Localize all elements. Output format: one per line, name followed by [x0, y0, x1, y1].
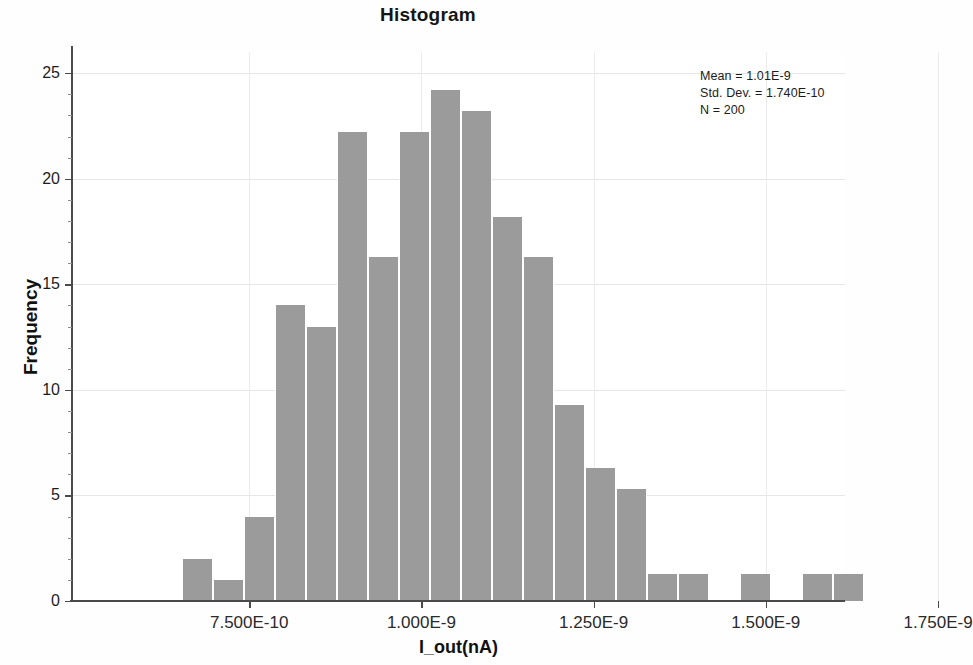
statistics-annotation: Mean = 1.01E-9 Std. Dev. = 1.740E-10 N =…	[700, 68, 825, 118]
y-tick-minor	[68, 453, 72, 454]
x-tick-label: 7.500E-10	[210, 613, 288, 633]
y-tick-minor	[68, 369, 72, 370]
y-tick-minor	[68, 242, 72, 243]
histogram-bar	[616, 489, 647, 601]
histogram-bar	[740, 574, 771, 602]
y-tick-minor	[68, 432, 72, 433]
histogram-bar	[585, 468, 616, 601]
y-tick-minor	[68, 559, 72, 560]
y-tick-label: 10	[42, 381, 60, 399]
histogram-bar	[368, 257, 399, 601]
y-tick-minor	[68, 94, 72, 95]
y-tick-minor	[68, 474, 72, 475]
histogram-bar	[306, 327, 337, 602]
y-tick-mark	[65, 390, 72, 391]
histogram-bar	[647, 574, 678, 602]
y-tick-minor	[68, 517, 72, 518]
y-tick-minor	[68, 538, 72, 539]
histogram-bar	[678, 574, 709, 602]
x-axis-line	[70, 600, 845, 602]
y-tick-minor	[68, 115, 72, 116]
y-tick-mark	[65, 495, 72, 496]
x-tick-mark	[938, 601, 939, 608]
y-tick-label: 20	[42, 170, 60, 188]
histogram-bar	[492, 217, 523, 601]
y-tick-label: 5	[51, 486, 60, 504]
histogram-bar	[833, 574, 864, 602]
plot-area: 0510152025 7.500E-101.000E-91.250E-91.50…	[72, 52, 845, 601]
x-tick-label: 1.750E-9	[904, 613, 973, 633]
x-axis-title: I_out(nA)	[72, 637, 845, 658]
y-tick-minor	[68, 348, 72, 349]
x-tick-mark	[249, 601, 250, 608]
y-tick-minor	[68, 137, 72, 138]
stat-std-dev: Std. Dev. = 1.740E-10	[700, 85, 825, 102]
y-axis-title: Frequency	[20, 212, 42, 442]
gridline-vertical	[766, 52, 767, 601]
gridline-vertical	[938, 52, 939, 601]
stat-mean: Mean = 1.01E-9	[700, 68, 825, 85]
histogram-bar	[399, 132, 430, 601]
y-tick-mark	[65, 73, 72, 74]
y-tick-mark	[65, 284, 72, 285]
y-tick-minor	[68, 200, 72, 201]
stat-n: N = 200	[700, 102, 825, 119]
x-tick-label: 1.000E-9	[387, 613, 456, 633]
histogram-bar	[554, 405, 585, 601]
histogram-bar	[213, 580, 244, 601]
x-tick-label: 1.500E-9	[731, 613, 800, 633]
y-tick-label: 15	[42, 275, 60, 293]
y-tick-minor	[68, 263, 72, 264]
x-tick-mark	[421, 601, 422, 608]
y-axis-title-container: Frequency	[2, 52, 36, 601]
y-tick-minor	[68, 221, 72, 222]
x-tick-mark	[766, 601, 767, 608]
page-title: Histogram	[0, 4, 856, 26]
y-axis-line	[71, 46, 73, 601]
x-tick-label: 1.250E-9	[559, 613, 628, 633]
y-tick-mark	[65, 601, 72, 602]
histogram-bar	[275, 305, 306, 601]
y-tick-mark	[65, 179, 72, 180]
histogram-bar	[430, 90, 461, 601]
histogram-bar	[182, 559, 213, 601]
y-tick-minor	[68, 580, 72, 581]
histogram-bar	[244, 517, 275, 602]
y-tick-minor	[68, 327, 72, 328]
y-tick-minor	[68, 305, 72, 306]
histogram-bar	[337, 132, 368, 601]
histogram-bar	[523, 257, 554, 601]
x-tick-mark	[594, 601, 595, 608]
y-tick-minor	[68, 411, 72, 412]
y-tick-label: 0	[51, 592, 60, 610]
histogram-bar	[802, 574, 833, 602]
histogram-bar	[461, 111, 492, 601]
y-tick-minor	[68, 158, 72, 159]
y-tick-label: 25	[42, 64, 60, 82]
